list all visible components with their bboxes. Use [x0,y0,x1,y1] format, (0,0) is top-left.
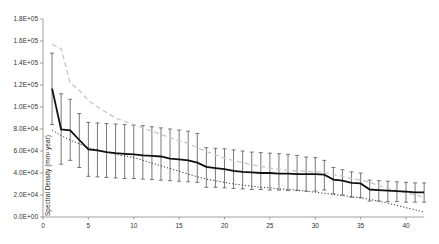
y-tick-label: 1.4E+05 [14,59,39,66]
x-tick-label: 10 [130,222,138,229]
error-bars [50,53,426,202]
y-tick-label: 4.0E+04 [14,169,39,176]
y-tick-label: 2.0E+04 [14,191,39,198]
mean-solid-line [52,89,424,193]
y-tick-label: 0.0E+00 [14,213,39,220]
x-axis: 0510152025303540 [41,217,424,229]
y-tick-label: 1.2E+05 [14,81,39,88]
y-tick-label: 6.0E+04 [14,147,39,154]
y-axis-title: Spectral Density (mm² year) [44,135,52,216]
y-axis: 0.0E+002.0E+044.0E+046.0E+048.0E+041.0E+… [14,15,43,220]
spectral-density-chart: 0.0E+002.0E+044.0E+046.0E+048.0E+041.0E+… [0,0,439,244]
y-tick-label: 8.0E+04 [14,125,39,132]
x-tick-label: 0 [41,222,45,229]
upper-bound-dashed-line [52,44,424,197]
y-tick-label: 1.6E+05 [14,37,39,44]
x-tick-label: 5 [87,222,91,229]
x-tick-label: 25 [266,222,274,229]
x-tick-label: 40 [402,222,410,229]
x-tick-label: 30 [312,222,320,229]
x-tick-label: 15 [176,222,184,229]
x-tick-label: 20 [221,222,229,229]
x-tick-label: 35 [357,222,365,229]
y-tick-label: 1.8E+05 [14,15,39,22]
y-tick-label: 1.0E+05 [14,103,39,110]
